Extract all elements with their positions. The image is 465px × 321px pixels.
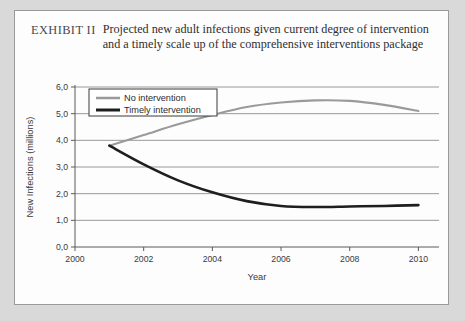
y-tick-label: 1,0: [56, 215, 68, 225]
series-line: [109, 146, 418, 207]
figure-card: EXHIBIT II Projected new adult infection…: [14, 10, 449, 305]
x-tick-label: 2006: [271, 254, 290, 264]
y-axis-title: New Infections (millions): [25, 117, 35, 218]
exhibit-label: EXHIBIT II: [31, 22, 96, 38]
y-tick-label: 6,0: [56, 82, 68, 92]
chart-canvas: 0,01,02,03,04,05,06,02000200220042006200…: [19, 77, 447, 299]
x-tick-label: 2000: [65, 254, 84, 264]
legend-label: Timely intervention: [124, 105, 201, 115]
x-tick-label: 2002: [134, 254, 153, 264]
x-axis-title: Year: [248, 272, 267, 282]
y-tick-label: 4,0: [56, 135, 68, 145]
legend-label: No intervention: [124, 93, 186, 103]
line-chart: 0,01,02,03,04,05,06,02000200220042006200…: [19, 77, 447, 299]
y-tick-label: 0,0: [56, 242, 68, 252]
figure-title-block: EXHIBIT II Projected new adult infection…: [31, 22, 431, 51]
y-tick-label: 5,0: [56, 109, 68, 119]
y-tick-label: 3,0: [56, 162, 68, 172]
figure-caption: Projected new adult infections given cur…: [103, 22, 431, 51]
x-tick-label: 2004: [203, 254, 222, 264]
x-tick-label: 2010: [409, 254, 428, 264]
y-tick-label: 2,0: [56, 189, 68, 199]
x-tick-label: 2008: [340, 254, 359, 264]
